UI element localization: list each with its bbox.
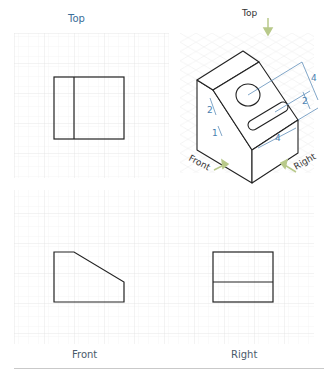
right-view-label: Right: [231, 349, 257, 360]
dim-overall-height: 4: [311, 73, 317, 83]
iso-top-label: Top: [241, 8, 257, 18]
grid-bottom: [14, 190, 314, 344]
bottom-divider: [14, 368, 324, 369]
orthographic-drawing: 4 2 2 1 4 Top Front Right: [0, 0, 336, 376]
dim-slot-width: 1: [212, 128, 218, 138]
grid-top-view: [14, 33, 169, 178]
dim-slot-length: 4: [275, 133, 281, 143]
dim-hole-offset: 2: [207, 105, 213, 115]
front-view-label: Front: [72, 349, 97, 360]
dim-slot-offset: 2: [302, 96, 308, 106]
